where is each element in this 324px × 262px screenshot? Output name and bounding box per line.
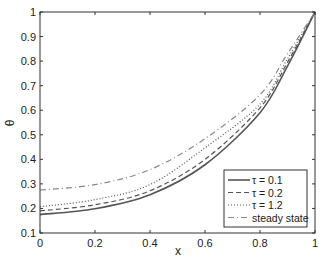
- y-tick-label: 0.4: [21, 153, 36, 165]
- legend-label: τ = 0.2: [252, 187, 283, 199]
- x-tick-label: 1: [312, 237, 318, 249]
- x-tick-label: 0: [37, 237, 43, 249]
- series-line-3: [40, 12, 315, 190]
- x-tick-label: 0.2: [87, 237, 102, 249]
- y-tick-label: 0.9: [21, 31, 36, 43]
- legend-label: τ = 1.2: [252, 199, 283, 211]
- y-tick-label: 0.3: [21, 178, 36, 190]
- legend-label: steady state: [252, 212, 309, 224]
- x-tick-label: 0.6: [197, 237, 212, 249]
- legend-label: τ = 0.1: [252, 174, 283, 186]
- y-tick-label: 1: [30, 6, 36, 18]
- x-axis-label: x: [175, 244, 181, 258]
- y-tick-label: 0.8: [21, 55, 36, 67]
- y-tick-label: 0.7: [21, 80, 36, 92]
- line-chart: 00.20.40.60.810.10.20.30.40.50.60.70.80.…: [0, 0, 324, 262]
- y-tick-label: 0.6: [21, 104, 36, 116]
- y-tick-label: 0.5: [21, 129, 36, 141]
- y-tick-label: 0.1: [21, 227, 36, 239]
- y-axis-label: θ: [3, 119, 17, 126]
- legend: τ = 0.1τ = 0.2τ = 1.2steady state: [224, 170, 309, 227]
- x-tick-label: 0.4: [142, 237, 157, 249]
- x-tick-label: 0.8: [252, 237, 267, 249]
- y-tick-label: 0.2: [21, 202, 36, 214]
